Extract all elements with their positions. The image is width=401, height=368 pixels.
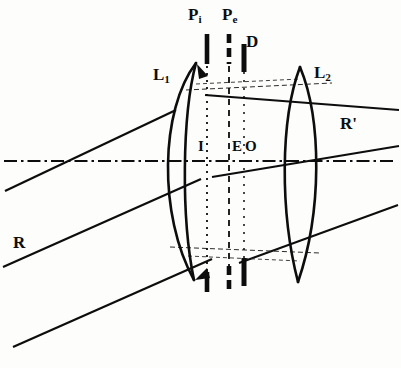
label-l1: L1 <box>153 66 170 85</box>
ray-in-upper <box>5 110 176 191</box>
label-r-prime: R' <box>340 115 357 132</box>
construction-line-lower <box>170 247 320 253</box>
lens-l2-rear-surface <box>298 67 316 282</box>
ray-out-upper <box>205 95 399 110</box>
label-pi: Pi <box>188 6 202 25</box>
optical-ray-diagram: Pi Pe D L1 L2 R' R I E O <box>0 0 401 368</box>
label-l2: L2 <box>314 64 331 83</box>
ray-in-middle <box>3 179 201 267</box>
lens-l2 <box>285 67 317 282</box>
ray-in-lower <box>13 259 212 347</box>
lens-l2-front-surface <box>285 67 300 282</box>
ray-out-lower <box>239 205 398 263</box>
label-point-e: E <box>232 139 242 154</box>
label-r: R <box>13 234 25 251</box>
label-point-i: I <box>198 139 204 154</box>
label-d: D <box>246 33 258 50</box>
label-point-o: O <box>245 139 257 154</box>
incoming-ray-bundle <box>3 110 212 347</box>
construction-line-upper-2 <box>196 79 300 84</box>
outgoing-ray-bundle <box>205 95 399 263</box>
label-pe: Pe <box>222 6 237 25</box>
diagram-canvas <box>0 0 401 368</box>
